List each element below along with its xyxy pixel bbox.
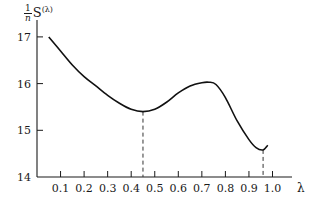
x-tick-label: 0.4 <box>122 182 140 195</box>
x-tick-label: 0.7 <box>193 182 211 195</box>
y-tick-label: 16 <box>17 78 31 91</box>
axes <box>37 20 292 177</box>
dashed-guides <box>143 112 263 177</box>
x-tick-label: 1.0 <box>264 182 282 195</box>
x-tick-label: 0.1 <box>52 182 70 195</box>
x-axis-label: λ <box>297 181 305 195</box>
x-tick-label: 0.6 <box>170 182 188 195</box>
x-tick-label: 0.3 <box>99 182 117 195</box>
fraction: 1 n <box>24 4 32 23</box>
ylabel-main: S <box>33 5 42 20</box>
ticks <box>37 37 273 177</box>
fraction-denominator: n <box>24 14 32 23</box>
x-tick-label: 0.2 <box>75 182 93 195</box>
tick-labels: 0.10.20.30.40.50.60.70.80.91.014151617 <box>17 31 281 195</box>
y-tick-label: 17 <box>17 31 31 44</box>
x-tick-label: 0.8 <box>217 182 235 195</box>
x-tick-label: 0.5 <box>146 182 164 195</box>
y-tick-label: 15 <box>17 124 31 137</box>
chart: 0.10.20.30.40.50.60.70.80.91.014151617 λ <box>0 0 315 202</box>
x-tick-label: 0.9 <box>240 182 258 195</box>
y-axis-label: 1 n S(λ) <box>24 4 53 23</box>
y-tick-label: 14 <box>17 171 31 184</box>
ylabel-sup: (λ) <box>42 5 53 14</box>
data-curve <box>49 37 268 150</box>
